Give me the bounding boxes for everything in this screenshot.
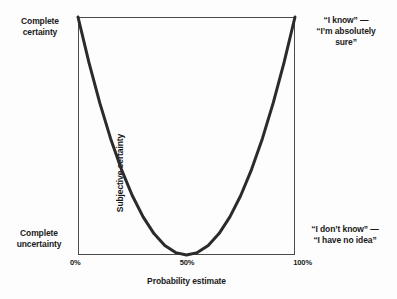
y-axis-top-label-line1: Complete <box>8 16 72 27</box>
y-axis-title-wrapper: Subjective certainty <box>56 72 76 202</box>
annotation-i-dont-know-line2: “I have no idea” <box>297 235 393 246</box>
x-tick-50: 50% <box>172 258 202 267</box>
x-tick-100: 100% <box>278 258 312 267</box>
annotation-i-know-line2: “I’m absolutely <box>300 26 392 37</box>
annotation-i-know: “I know” — “I’m absolutely sure” <box>300 15 392 48</box>
chart-figure: Complete certainty Complete uncertainty … <box>0 0 397 299</box>
x-tick-0: 0% <box>70 258 92 267</box>
y-axis-top-label: Complete certainty <box>8 16 72 37</box>
y-axis-top-label-line2: certainty <box>8 27 72 38</box>
annotation-i-know-line1: “I know” — <box>300 15 392 26</box>
annotation-i-dont-know: “I don’t know” — “I have no idea” <box>297 224 393 246</box>
y-axis-bottom-label-line1: Complete <box>4 228 74 239</box>
curve-plot <box>78 17 295 255</box>
x-axis-title: Probability estimate <box>78 276 295 286</box>
annotation-i-know-line3: sure” <box>300 37 392 48</box>
y-axis-bottom-label: Complete uncertainty <box>4 228 74 249</box>
subjective-certainty-curve <box>78 17 295 255</box>
annotation-i-dont-know-line1: “I don’t know” — <box>297 224 393 235</box>
y-axis-bottom-label-line2: uncertainty <box>4 239 74 250</box>
